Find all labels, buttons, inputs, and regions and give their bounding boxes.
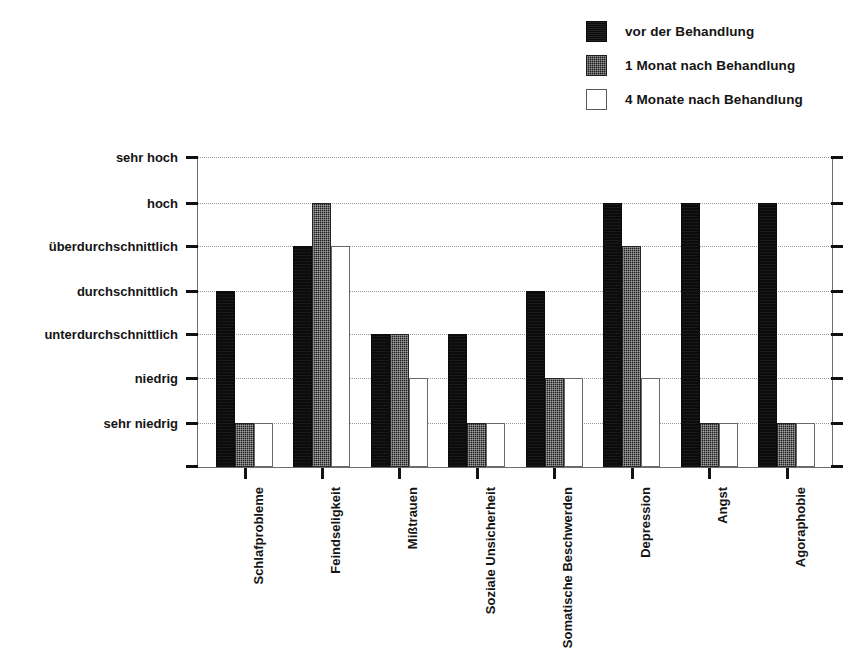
bar [254,423,273,467]
x-axis-label-wrap: Depression [638,157,639,158]
y-axis-tick-right [831,422,843,425]
y-axis-tick-left [186,422,198,425]
bar [409,378,428,467]
y-axis-tick-right [831,377,843,380]
bar [758,203,777,467]
x-axis-label-wrap: Mißtrauen [405,157,406,158]
legend-item-month4: 4 Monate nach Behandlung [586,82,860,116]
legend-label-month4: 4 Monate nach Behandlung [625,92,803,107]
y-axis-tick-left [186,290,198,293]
y-axis-tick-right [831,202,843,205]
bar-group [448,157,505,467]
y-axis-tick-label: sehr hoch [116,150,178,165]
x-axis-tick-label: Depression [638,487,653,558]
bar [448,334,467,467]
bar [681,203,700,467]
bar [331,246,350,467]
x-axis-tick-label: Angst [715,487,730,524]
x-axis-tick-label: Schlafprobleme [251,487,266,585]
y-axis-tick-label: sehr niedrig [104,416,178,431]
y-axis-tick-right [831,333,843,336]
legend-label-before: vor der Behandlung [625,24,754,39]
y-axis-tick-left [186,202,198,205]
x-axis-label-wrap: Agoraphobie [793,157,794,158]
axis-baseline-cap [186,465,198,468]
x-axis-tick-label: Soziale Unsicherheit [483,487,498,614]
bar [564,378,583,467]
x-axis-tick [398,468,401,479]
x-axis-line [197,467,833,468]
x-axis-label-wrap: Angst [715,157,716,158]
x-axis-label-wrap: Feindseligkeit [328,157,329,158]
chart-legend: vor der Behandlung 1 Monat nach Behandlu… [586,14,860,116]
bar [777,423,796,467]
bar [467,423,486,467]
legend-swatch-before-icon [586,21,607,42]
x-axis-tick [708,468,711,479]
x-axis-tick [786,468,789,479]
bar-group [603,157,660,467]
gridline [197,334,833,335]
bar [390,334,409,467]
plot-area: SchlafproblemeFeindseligkeitMißtrauenSoz… [197,157,833,467]
x-axis-label-wrap: Soziale Unsicherheit [483,157,484,158]
bar [719,423,738,467]
y-axis-tick-label: unterdurchschnittlich [44,327,178,342]
bar-chart-figure: vor der Behandlung 1 Monat nach Behandlu… [0,0,860,666]
legend-label-month1: 1 Monat nach Behandlung [625,58,795,73]
legend-item-before: vor der Behandlung [586,14,860,48]
bar [796,423,815,467]
bar [486,423,505,467]
legend-swatch-month1-icon [586,55,607,76]
legend-item-month1: 1 Monat nach Behandlung [586,48,860,82]
legend-swatch-month4-icon [586,89,607,110]
y-axis-tick-label: niedrig [135,371,178,386]
x-axis-tick [631,468,634,479]
y-axis-tick-label: überdurchschnittlich [49,239,178,254]
x-axis-label-wrap: Schlafprobleme [251,157,252,158]
y-axis-tick-right [831,245,843,248]
gridline [197,291,833,292]
y-axis-labels: sehr hochhochüberdurchschnittlichdurchsc… [0,157,178,467]
y-axis-tick-left [186,377,198,380]
x-axis-tick-label: Somatische Beschwerden [560,487,575,648]
y-axis-tick-right [831,290,843,293]
x-axis-tick [321,468,324,479]
axis-baseline-cap [831,465,843,468]
bar-group [293,157,350,467]
bar-group [758,157,815,467]
bar-group [216,157,273,467]
bar [235,423,254,467]
y-axis-tick-left [186,245,198,248]
y-axis-tick-label: hoch [147,196,178,211]
bar [641,378,660,467]
bar [312,203,331,467]
bar [622,246,641,467]
bar-group [681,157,738,467]
bar [700,423,719,467]
y-axis-tick-right [831,156,843,159]
x-axis-tick [553,468,556,479]
bar-group [371,157,428,467]
x-axis-tick-label: Mißtrauen [405,487,420,549]
x-axis-tick [244,468,247,479]
y-axis-tick-left [186,333,198,336]
x-axis-tick [476,468,479,479]
gridline [197,157,833,158]
bar [371,334,390,467]
gridline [197,378,833,379]
gridline [197,203,833,204]
x-axis-label-wrap: Somatische Beschwerden [560,157,561,158]
bar [526,291,545,467]
y-axis-tick-left [186,156,198,159]
x-axis-tick-label: Agoraphobie [793,487,808,567]
bar [545,378,564,467]
bar-group [526,157,583,467]
bar [216,291,235,467]
bar [603,203,622,467]
bar [293,246,312,467]
y-axis-tick-label: durchschnittlich [77,284,178,299]
gridline [197,423,833,424]
x-axis-tick-label: Feindseligkeit [328,487,343,574]
gridline [197,246,833,247]
